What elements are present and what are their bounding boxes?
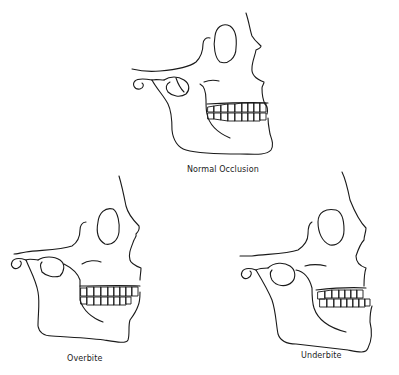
teeth-underbite xyxy=(0,0,399,375)
label-underbite: Underbite xyxy=(301,351,341,360)
occlusion-diagram: Normal Occlusion Overbite xyxy=(0,0,399,375)
